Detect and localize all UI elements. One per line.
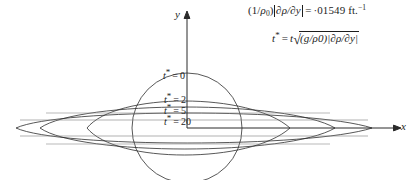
x-axis-arrowhead (394, 125, 402, 131)
eq-gradient-units: ft. (348, 4, 358, 16)
eq-gradient-equals: = (303, 4, 313, 16)
equation-density-gradient: (1/ρ0)∂ρ/∂y=·01549 ft.−1 (248, 4, 366, 18)
eq-gradient-lhs-open: (1/ (248, 4, 261, 16)
y-axis-label: y (175, 8, 180, 20)
curve-label-t20-value: 20 (181, 116, 191, 127)
curve-label-t0-value: 0 (180, 70, 185, 81)
contour-plot-canvas (0, 0, 413, 180)
y-axis-arrowhead (184, 11, 190, 19)
curve-label-tstar-20: t*=20 (164, 113, 191, 127)
eq-gradient-units-exponent: −1 (358, 3, 366, 12)
eq-tstar-radicand: (g/ρ0)|∂ρ/∂y| (299, 31, 359, 45)
x-axis-label: x (401, 120, 406, 132)
curve-label-t0-equals: = (170, 70, 180, 81)
eq-tstar-equals: = (280, 32, 290, 44)
contour-group (16, 73, 372, 180)
figure-page: (1/ρ0)∂ρ/∂y=·01549 ft.−1 t*=t√(g/ρ0)|∂ρ/… (0, 0, 413, 180)
equation-tstar-definition: t*=t√(g/ρ0)|∂ρ/∂y| (272, 31, 359, 47)
eq-gradient-abs-term: ∂ρ/∂y (274, 5, 304, 17)
eq-gradient-value: ·01549 (314, 4, 346, 16)
curve-label-tstar-0: t*=0 (163, 67, 185, 81)
curve-label-t20-equals: = (171, 116, 181, 127)
